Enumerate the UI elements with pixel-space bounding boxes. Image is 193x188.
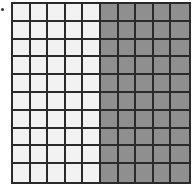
unshaded-cell — [83, 129, 101, 147]
unshaded-cell — [48, 164, 66, 182]
shaded-cell — [171, 164, 189, 182]
shaded-cell — [136, 22, 154, 40]
unshaded-cell — [66, 75, 84, 93]
shaded-cell — [171, 129, 189, 147]
unshaded-cell — [13, 164, 31, 182]
unshaded-cell — [48, 93, 66, 111]
shaded-cell — [101, 164, 119, 182]
unshaded-cell — [13, 4, 31, 22]
shaded-cell — [171, 146, 189, 164]
unshaded-cell — [48, 111, 66, 129]
shaded-cell — [154, 146, 172, 164]
unshaded-cell — [13, 93, 31, 111]
unshaded-cell — [66, 22, 84, 40]
shaded-cell — [154, 93, 172, 111]
shaded-cell — [171, 93, 189, 111]
unshaded-cell — [31, 22, 49, 40]
shaded-cell — [119, 93, 137, 111]
shaded-cell — [136, 129, 154, 147]
shaded-cell — [171, 4, 189, 22]
unshaded-cell — [13, 129, 31, 147]
unshaded-cell — [83, 164, 101, 182]
unshaded-cell — [83, 111, 101, 129]
shaded-cell — [119, 4, 137, 22]
unshaded-cell — [48, 57, 66, 75]
shaded-cell — [154, 4, 172, 22]
unshaded-cell — [31, 40, 49, 58]
shaded-cell — [171, 40, 189, 58]
unshaded-cell — [31, 164, 49, 182]
unshaded-cell — [31, 57, 49, 75]
unshaded-cell — [31, 111, 49, 129]
unshaded-cell — [66, 146, 84, 164]
shaded-cell — [136, 57, 154, 75]
shaded-cell — [119, 40, 137, 58]
shaded-cell — [154, 40, 172, 58]
shaded-cell — [119, 146, 137, 164]
shaded-cell — [119, 111, 137, 129]
unshaded-cell — [13, 146, 31, 164]
unshaded-cell — [13, 75, 31, 93]
bullet-marker — [1, 8, 4, 11]
shaded-cell — [154, 75, 172, 93]
unshaded-cell — [66, 164, 84, 182]
shaded-cell — [154, 164, 172, 182]
unshaded-cell — [48, 129, 66, 147]
shaded-cell — [136, 146, 154, 164]
shaded-cell — [101, 22, 119, 40]
shaded-cell — [154, 22, 172, 40]
unshaded-cell — [83, 146, 101, 164]
shaded-cell — [119, 57, 137, 75]
unshaded-cell — [48, 75, 66, 93]
unshaded-cell — [66, 129, 84, 147]
unshaded-cell — [31, 146, 49, 164]
hundred-grid — [11, 2, 191, 184]
shaded-cell — [154, 111, 172, 129]
shaded-cell — [136, 111, 154, 129]
unshaded-cell — [31, 75, 49, 93]
shaded-cell — [101, 4, 119, 22]
shaded-cell — [101, 40, 119, 58]
unshaded-cell — [13, 22, 31, 40]
shaded-cell — [119, 22, 137, 40]
unshaded-cell — [31, 129, 49, 147]
shaded-cell — [101, 111, 119, 129]
unshaded-cell — [13, 40, 31, 58]
unshaded-cell — [83, 4, 101, 22]
unshaded-cell — [48, 146, 66, 164]
shaded-cell — [101, 93, 119, 111]
unshaded-cell — [66, 4, 84, 22]
shaded-cell — [171, 75, 189, 93]
shaded-cell — [101, 146, 119, 164]
shaded-cell — [171, 57, 189, 75]
shaded-cell — [101, 75, 119, 93]
unshaded-cell — [13, 111, 31, 129]
unshaded-cell — [66, 93, 84, 111]
unshaded-cell — [13, 57, 31, 75]
shaded-cell — [171, 111, 189, 129]
shaded-cell — [136, 75, 154, 93]
unshaded-cell — [48, 4, 66, 22]
shaded-cell — [101, 57, 119, 75]
unshaded-cell — [31, 93, 49, 111]
shaded-cell — [119, 75, 137, 93]
shaded-cell — [154, 57, 172, 75]
shaded-cell — [136, 93, 154, 111]
unshaded-cell — [31, 4, 49, 22]
unshaded-cell — [66, 111, 84, 129]
unshaded-cell — [83, 40, 101, 58]
unshaded-cell — [48, 22, 66, 40]
unshaded-cell — [66, 40, 84, 58]
unshaded-cell — [66, 57, 84, 75]
shaded-cell — [119, 129, 137, 147]
unshaded-cell — [48, 40, 66, 58]
shaded-cell — [136, 40, 154, 58]
shaded-cell — [171, 22, 189, 40]
unshaded-cell — [83, 93, 101, 111]
shaded-cell — [136, 4, 154, 22]
shaded-cell — [136, 164, 154, 182]
shaded-cell — [154, 129, 172, 147]
shaded-cell — [119, 164, 137, 182]
unshaded-cell — [83, 22, 101, 40]
unshaded-cell — [83, 57, 101, 75]
